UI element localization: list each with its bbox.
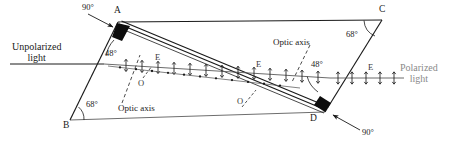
output-beam-caption-line1: Polarized bbox=[400, 63, 438, 74]
o-ray-leader-left bbox=[143, 66, 152, 78]
leader-arrow-d90 bbox=[333, 115, 360, 130]
output-beam-caption-line2: light bbox=[400, 74, 438, 85]
prism-edge-ac bbox=[118, 20, 382, 22]
ray-label-e-inside-left: E bbox=[155, 53, 160, 62]
angle-arc-b bbox=[79, 107, 85, 120]
prism-edge-db bbox=[70, 112, 325, 120]
right-angle-marker-a bbox=[112, 23, 130, 41]
optics-diagram-figure: A B C D 90° 48° 68° 68° 48° 90° Optic ax… bbox=[0, 0, 450, 148]
angle-label-a-right: 90° bbox=[82, 3, 94, 12]
angle-label-d-right: 90° bbox=[362, 128, 374, 137]
e-ray-internal-line bbox=[104, 64, 330, 78]
angle-label-d-inner: 48° bbox=[311, 60, 323, 69]
output-beam-caption: Polarized light bbox=[400, 63, 438, 84]
optic-axis-label-bottom-left: Optic axis bbox=[118, 104, 155, 113]
vertex-label-a: A bbox=[114, 6, 121, 16]
optic-axis-label-top-right: Optic axis bbox=[273, 38, 310, 47]
ray-label-e-inside-right: E bbox=[256, 60, 261, 69]
ray-label-e-outside: E bbox=[368, 63, 373, 72]
leader-arrow-a90 bbox=[88, 14, 113, 27]
ray-label-o-lower: O bbox=[237, 97, 243, 106]
angle-arc-d bbox=[307, 76, 318, 92]
input-beam-caption-line1: Unpolarized bbox=[12, 42, 61, 53]
ray-label-o-upper: O bbox=[138, 79, 144, 88]
vertex-label-b: B bbox=[63, 121, 69, 131]
angle-label-a-inner: 48° bbox=[105, 49, 117, 58]
input-beam-caption: Unpolarized light bbox=[12, 42, 61, 63]
vertex-label-c: C bbox=[379, 5, 385, 15]
input-beam-caption-line2: light bbox=[12, 53, 61, 64]
angle-label-c-inner: 68° bbox=[346, 30, 358, 39]
angle-label-b-inner: 68° bbox=[86, 100, 98, 109]
vertex-label-d: D bbox=[310, 114, 317, 124]
o-ray-leader-right bbox=[242, 90, 256, 107]
